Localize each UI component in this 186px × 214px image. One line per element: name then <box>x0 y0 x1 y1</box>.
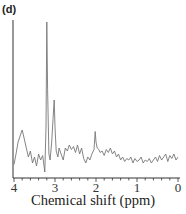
x-axis-label: Chemical shift (ppm) <box>0 192 186 209</box>
spectrum-line <box>14 22 178 172</box>
nmr-spectrum-chart: 43210 <box>0 0 186 214</box>
